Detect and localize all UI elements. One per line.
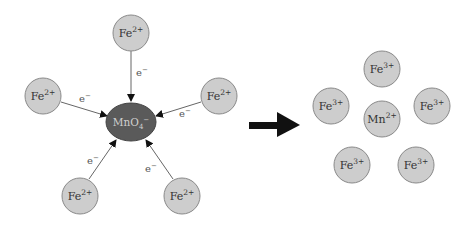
fe2-ion: Fe2+ <box>164 178 200 214</box>
fe3-ion: Fe3+ <box>313 88 349 124</box>
fe2-ion: Fe2+ <box>62 178 98 214</box>
redox-diagram: e− e− e− e− e− MnO4− Fe2+ Fe2+ Fe2+ Fe2+… <box>0 0 471 227</box>
permanganate-ion: MnO4− <box>106 103 156 141</box>
electron-label: e− <box>145 162 157 174</box>
fe3-ion: Fe3+ <box>398 147 434 183</box>
fe2-ion: Fe2+ <box>25 78 61 114</box>
electron-label: e− <box>179 107 191 119</box>
fe3-ion: Fe3+ <box>334 147 370 183</box>
fe3-ion: Fe3+ <box>364 51 400 87</box>
right-arrow-icon <box>249 112 300 137</box>
mn2-ion: Mn2+ <box>364 101 400 137</box>
electron-label: e− <box>79 92 91 104</box>
fe2-ion: Fe2+ <box>201 78 237 114</box>
diagram-canvas: e− e− e− e− e− MnO4− Fe2+ Fe2+ Fe2+ Fe2+… <box>0 0 471 227</box>
fe3-ion: Fe3+ <box>414 88 450 124</box>
electron-arrow-left <box>61 102 107 116</box>
electron-label: e− <box>136 66 148 78</box>
electron-label: e− <box>87 154 99 166</box>
fe2-ion: Fe2+ <box>113 15 149 51</box>
